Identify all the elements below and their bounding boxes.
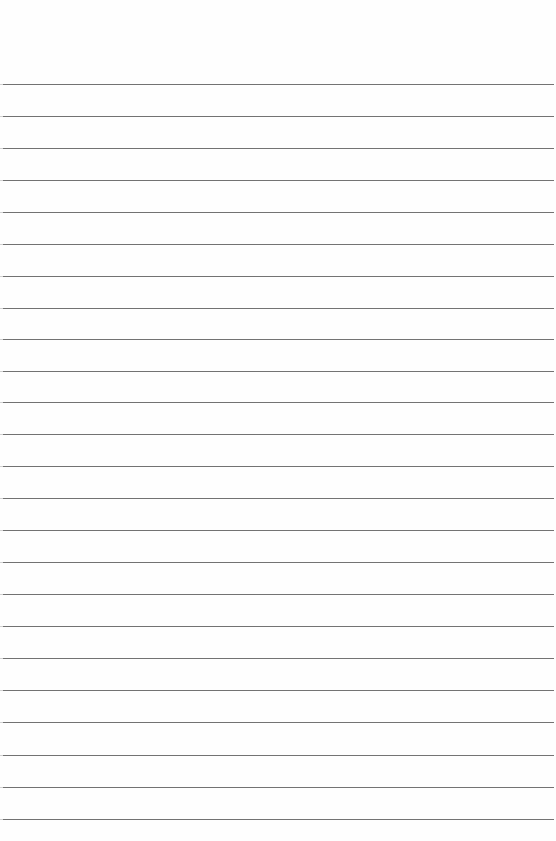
ruled-line bbox=[2, 530, 554, 531]
ruled-line bbox=[2, 626, 554, 627]
ruled-line bbox=[2, 658, 554, 659]
ruled-line bbox=[2, 819, 554, 820]
ruled-line bbox=[2, 308, 554, 309]
ruled-line bbox=[2, 371, 554, 372]
ruled-line bbox=[2, 594, 554, 595]
ruled-line bbox=[2, 755, 554, 756]
ruled-line bbox=[2, 434, 554, 435]
ruled-line bbox=[2, 244, 554, 245]
ruled-line bbox=[2, 787, 554, 788]
ruled-line bbox=[2, 562, 554, 563]
ruled-line bbox=[2, 690, 554, 691]
ruled-line bbox=[2, 276, 554, 277]
ruled-line bbox=[2, 722, 554, 723]
ruled-line bbox=[2, 339, 554, 340]
ruled-line bbox=[2, 84, 554, 85]
lined-paper-page bbox=[0, 0, 556, 841]
ruled-line bbox=[2, 116, 554, 117]
ruled-line bbox=[2, 466, 554, 467]
ruled-line bbox=[2, 148, 554, 149]
ruled-line bbox=[2, 498, 554, 499]
ruled-line bbox=[2, 180, 554, 181]
ruled-line bbox=[2, 402, 554, 403]
ruled-line bbox=[2, 212, 554, 213]
